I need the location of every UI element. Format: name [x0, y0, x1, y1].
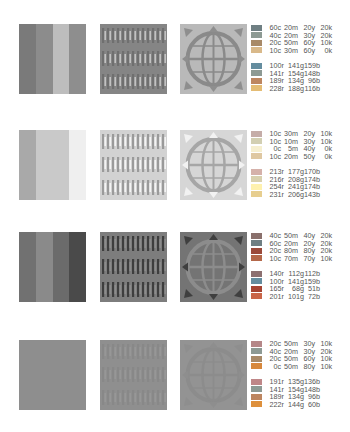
- color-chip: [251, 278, 262, 284]
- cmyk-c-value: 10c: [267, 47, 281, 55]
- weave-swatch: [100, 340, 167, 410]
- stripe-band: [69, 130, 86, 200]
- color-chip: [251, 176, 262, 182]
- rgb-r-value: 231r: [267, 191, 284, 199]
- cmyk-legend-row: 10c30m60y0k: [251, 47, 350, 55]
- color-chip: [251, 131, 262, 137]
- cmyk-y-value: 60y: [298, 47, 315, 55]
- color-chip: [251, 25, 262, 31]
- globe-swatch: [180, 340, 247, 410]
- rgb-legend-row: 222r144g60b: [251, 401, 350, 409]
- rgb-r-value: 228r: [267, 85, 284, 93]
- stripe-band: [36, 340, 53, 410]
- cmyk-k-value: 10k: [315, 363, 332, 371]
- color-chip: [251, 47, 262, 53]
- cmyk-c-value: 10c: [267, 255, 281, 263]
- cmyk-m-value: 20m: [281, 153, 298, 161]
- rgb-g-value: 188g: [284, 85, 304, 93]
- rgb-g-value: 206g: [284, 191, 304, 199]
- color-chip: [251, 191, 262, 197]
- color-legend: 20c50m30y10k40c20m30y20k20c50m60y10k0c50…: [251, 340, 350, 408]
- color-chip: [251, 233, 262, 239]
- stripe-swatch: [19, 232, 86, 302]
- color-chip: [251, 78, 262, 84]
- cmyk-m-value: 30m: [281, 47, 298, 55]
- color-chip: [251, 85, 262, 91]
- stripe-pattern: [19, 24, 86, 94]
- color-chip: [251, 40, 262, 46]
- globe-icon: [180, 340, 247, 410]
- weave-pattern: [100, 130, 167, 200]
- stripe-band: [36, 130, 53, 200]
- color-chip: [251, 184, 262, 190]
- color-chip: [251, 63, 262, 69]
- cmyk-legend-row: 60c20m20y20k: [251, 24, 350, 32]
- rgb-g-value: 101g: [284, 293, 304, 301]
- cmyk-m-value: 50m: [281, 363, 298, 371]
- globe-swatch: [180, 232, 247, 302]
- cmyk-legend-row: 20c50m60y10k: [251, 355, 350, 363]
- rgb-r-value: 201r: [267, 293, 284, 301]
- color-chip: [251, 286, 262, 292]
- cmyk-legend-row: 40c50m40y20k: [251, 232, 350, 240]
- stripe-band: [69, 24, 86, 94]
- stripe-band: [19, 24, 36, 94]
- color-chip: [251, 169, 262, 175]
- rgb-b-value: 143b: [304, 191, 320, 199]
- rgb-legend-row: 231r206g143b: [251, 191, 350, 199]
- palette-group: 60c20m20y20k40c20m30y20k20c50m60y10k10c3…: [0, 24, 350, 96]
- globe-swatch: [180, 24, 247, 94]
- palette-group: 20c50m30y10k40c20m30y20k20c50m60y10k0c50…: [0, 340, 350, 412]
- color-chip: [251, 341, 262, 347]
- color-chip: [251, 146, 262, 152]
- stripe-band: [53, 232, 70, 302]
- cmyk-y-value: 80y: [298, 363, 315, 371]
- globe-swatch: [180, 130, 247, 200]
- color-chip: [251, 138, 262, 144]
- rgb-b-value: 60b: [304, 401, 320, 409]
- stripe-band: [53, 24, 70, 94]
- cmyk-legend-row: 40c20m30y20k: [251, 348, 350, 356]
- cmyk-legend-row: 20c50m60y10k: [251, 39, 350, 47]
- cmyk-legend-row: 10c10m30y10k: [251, 138, 350, 146]
- rgb-g-value: 144g: [284, 401, 304, 409]
- color-chip: [251, 240, 262, 246]
- color-legend: 60c20m20y20k40c20m30y20k20c50m60y10k10c3…: [251, 24, 350, 92]
- cmyk-legend-row: 20c80m80y20k: [251, 247, 350, 255]
- color-chip: [251, 401, 262, 407]
- rgb-legend-row: 228r188g116b: [251, 85, 350, 93]
- weave-swatch: [100, 130, 167, 200]
- cmyk-m-value: 70m: [281, 255, 298, 263]
- color-chip: [251, 386, 262, 392]
- cmyk-legend-row: 0c5m40y0k: [251, 145, 350, 153]
- weave-swatch: [100, 24, 167, 94]
- cmyk-legend-row: 60c20m20y20k: [251, 240, 350, 248]
- color-chip: [251, 363, 262, 369]
- stripe-band: [69, 232, 86, 302]
- cmyk-legend-row: 10c70m70y10k: [251, 255, 350, 263]
- color-chip: [251, 356, 262, 362]
- color-legend: 10c30m20y10k10c10m30y10k0c5m40y0k10c20m5…: [251, 130, 350, 198]
- rgb-r-value: 222r: [267, 401, 284, 409]
- color-chip: [251, 70, 262, 76]
- cmyk-k-value: 0k: [315, 153, 332, 161]
- stripe-pattern: [19, 232, 86, 302]
- rgb-b-value: 116b: [304, 85, 320, 93]
- color-chip: [251, 32, 262, 38]
- color-chip: [251, 271, 262, 277]
- color-chip: [251, 293, 262, 299]
- stripe-swatch: [19, 340, 86, 410]
- stripe-pattern: [19, 130, 86, 200]
- cmyk-y-value: 70y: [298, 255, 315, 263]
- weave-pattern: [100, 24, 167, 94]
- globe-icon: [180, 232, 247, 302]
- stripe-swatch: [19, 24, 86, 94]
- stripe-pattern: [19, 340, 86, 410]
- color-chip: [251, 255, 262, 261]
- cmyk-legend-row: 10c30m20y10k: [251, 130, 350, 138]
- stripe-band: [36, 24, 53, 94]
- weave-pattern: [100, 232, 167, 302]
- color-chip: [251, 379, 262, 385]
- cmyk-legend-row: 20c50m30y10k: [251, 340, 350, 348]
- weave-swatch: [100, 232, 167, 302]
